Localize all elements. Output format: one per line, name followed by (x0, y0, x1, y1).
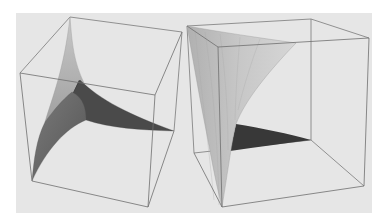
right-surface-sheet (187, 26, 296, 207)
right-plot (187, 19, 369, 207)
left-surface-wing-left (32, 92, 86, 181)
right-surface-floor (230, 124, 311, 151)
left-surface-wing-right (72, 80, 174, 131)
left-plot (20, 17, 182, 207)
surface-plots-figure (0, 0, 383, 221)
